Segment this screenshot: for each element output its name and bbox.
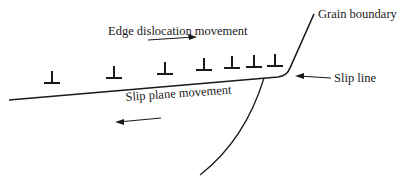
edge-dislocation-icon <box>267 54 283 67</box>
grain-boundary-label: Grain boundary <box>318 8 397 21</box>
arrow-left-icon <box>115 118 161 125</box>
slip-line-label: Slip line <box>334 72 376 85</box>
slip-line-arrow-icon <box>295 73 331 79</box>
edge-dislocation-icon <box>224 56 240 69</box>
edge-dislocation-icon <box>196 58 212 71</box>
edge-dislocation-icon <box>106 66 122 79</box>
edge-dislocation-movement-label: Edge dislocation movement <box>108 25 248 38</box>
edge-dislocation-icon <box>157 62 173 75</box>
dislocation-pileup-diagram: Edge dislocation movement Grain boundary… <box>0 0 398 187</box>
edge-dislocation-icon <box>44 71 60 84</box>
edge-dislocation-icon <box>246 55 262 68</box>
